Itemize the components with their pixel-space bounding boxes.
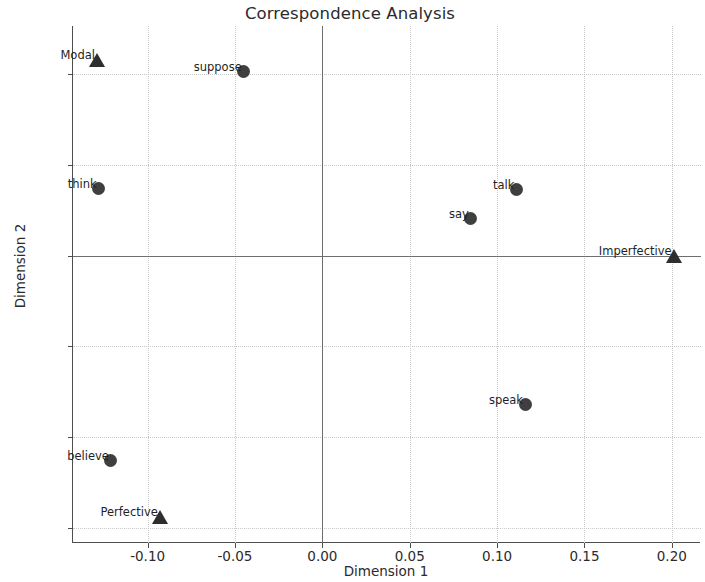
data-point-label: believe (67, 451, 109, 463)
data-point-label: suppose (194, 62, 242, 74)
gridline-vertical (148, 26, 149, 543)
x-axis-tick-label: 0.10 (462, 550, 532, 564)
plot-area: 0.040.020.00-0.02-0.04-0.06-0.10-0.050.0… (72, 26, 700, 543)
zero-line-vertical (322, 26, 323, 543)
gridline-horizontal (73, 74, 701, 75)
y-axis-tick (68, 74, 73, 75)
x-axis-tick-label: 0.00 (287, 550, 357, 564)
data-point-label: Modal (60, 50, 95, 62)
data-point-label: Perfective (100, 507, 157, 519)
gridline-horizontal (73, 346, 701, 347)
y-axis-tick (68, 528, 73, 529)
x-axis-tick-label: -0.10 (113, 550, 183, 564)
data-point-label: speak (489, 395, 523, 407)
gridline-vertical (410, 26, 411, 543)
data-point-label: think (68, 179, 97, 191)
gridline-horizontal (73, 165, 701, 166)
y-axis-label: Dimension 2 (12, 116, 28, 416)
data-point-label: Imperfective (599, 246, 672, 258)
x-axis-label: Dimension 1 (72, 563, 700, 579)
x-axis-tick-label: 0.05 (375, 550, 445, 564)
x-axis-tick-label: -0.05 (200, 550, 270, 564)
gridline-vertical (235, 26, 236, 543)
data-point-label: say (449, 209, 469, 221)
y-axis-tick (68, 346, 73, 347)
gridline-vertical (497, 26, 498, 543)
data-point-label: talk (493, 180, 514, 192)
x-axis-tick-label: 0.20 (637, 550, 705, 564)
gridline-vertical (584, 26, 585, 543)
x-axis-tick-label: 0.15 (549, 550, 619, 564)
y-axis-tick (68, 165, 73, 166)
gridline-horizontal (73, 528, 701, 529)
gridline-vertical (672, 26, 673, 543)
y-axis-tick (68, 437, 73, 438)
chart-title: Correspondence Analysis (0, 4, 700, 23)
gridline-horizontal (73, 437, 701, 438)
y-axis-tick (68, 256, 73, 257)
